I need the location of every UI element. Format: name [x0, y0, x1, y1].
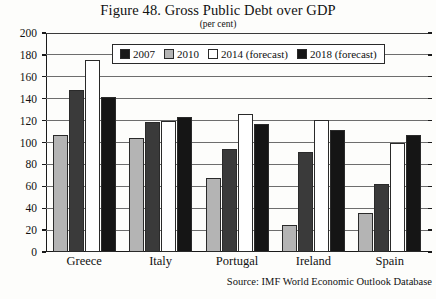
- category-label: Ireland: [275, 254, 351, 274]
- bar: [85, 60, 100, 252]
- legend-swatch-icon: [208, 49, 218, 59]
- bar-group: [352, 33, 428, 252]
- bar: [161, 121, 176, 252]
- y-axis-tick-label: 100: [20, 137, 37, 149]
- y-tick-mark-right: [428, 142, 432, 143]
- category-label: Greece: [46, 254, 122, 274]
- bar: [177, 117, 192, 252]
- source-note: Source: IMF World Economic Outlook Datab…: [227, 276, 432, 287]
- category-label: Portugal: [199, 254, 275, 274]
- y-tick-mark-right: [428, 208, 432, 209]
- bar-group: [275, 33, 351, 252]
- y-tick-mark-right: [428, 98, 432, 99]
- bar: [145, 122, 160, 252]
- legend-swatch-icon: [297, 49, 307, 59]
- legend-label: 2007: [133, 48, 155, 60]
- category-axis-labels: GreeceItalyPortugalIrelandSpain: [46, 254, 428, 274]
- bar: [69, 90, 84, 252]
- bar: [129, 138, 144, 252]
- y-axis-tick-label: 160: [20, 71, 37, 83]
- bar: [406, 135, 421, 252]
- y-axis-tick-label: 20: [26, 224, 38, 236]
- legend-item: 2010: [164, 48, 199, 60]
- bar: [53, 135, 68, 252]
- y-axis-labels: 200180160140120100806040200: [0, 33, 44, 252]
- legend-item: 2007: [120, 48, 155, 60]
- y-tick-mark-right: [428, 186, 432, 187]
- bar-groups: [46, 33, 428, 252]
- y-tick-mark-right: [428, 32, 432, 33]
- bar-group: [46, 33, 122, 252]
- chart-legend: 200720102014 (forecast)2018 (forecast): [112, 44, 385, 64]
- bar: [374, 184, 389, 252]
- y-axis-tick-label: 80: [26, 158, 38, 170]
- y-tick-mark-right: [428, 251, 432, 252]
- y-axis-tick-label: 0: [31, 246, 37, 258]
- bar: [206, 178, 221, 252]
- y-axis-tick-label: 120: [20, 115, 37, 127]
- legend-swatch-icon: [120, 49, 130, 59]
- figure-container: Figure 48. Gross Public Debt over GDP (p…: [0, 0, 436, 299]
- bar: [101, 97, 116, 252]
- bar: [282, 225, 297, 252]
- legend-label: 2010: [177, 48, 199, 60]
- y-tick-mark-right: [428, 229, 432, 230]
- legend-label: 2018 (forecast): [310, 48, 377, 60]
- bar-group: [122, 33, 198, 252]
- y-axis-tick-label: 40: [26, 202, 38, 214]
- y-tick-mark-right: [428, 164, 432, 165]
- legend-item: 2014 (forecast): [208, 48, 288, 60]
- bar: [222, 149, 237, 252]
- bar: [298, 152, 313, 252]
- bar: [254, 124, 269, 252]
- y-axis-tick-label: 60: [26, 180, 38, 192]
- figure-title: Figure 48. Gross Public Debt over GDP: [0, 2, 436, 19]
- bar: [358, 213, 373, 252]
- legend-item: 2018 (forecast): [297, 48, 377, 60]
- bar: [238, 114, 253, 252]
- y-tick-mark-right: [428, 54, 432, 55]
- bar: [314, 120, 329, 252]
- category-label: Spain: [352, 254, 428, 274]
- legend-label: 2014 (forecast): [221, 48, 288, 60]
- legend-swatch-icon: [164, 49, 174, 59]
- bar-group: [199, 33, 275, 252]
- bar: [390, 143, 405, 253]
- y-axis-tick-label: 200: [20, 27, 37, 39]
- category-label: Italy: [122, 254, 198, 274]
- y-axis-tick-label: 140: [20, 93, 37, 105]
- bar: [330, 130, 345, 252]
- figure-subtitle: (per cent): [0, 19, 436, 29]
- y-tick-mark-right: [428, 120, 432, 121]
- y-axis-tick-label: 180: [20, 49, 37, 61]
- plot-area: [46, 33, 428, 252]
- y-tick-mark-right: [428, 76, 432, 77]
